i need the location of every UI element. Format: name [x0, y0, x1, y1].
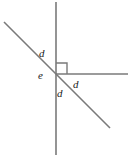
- angle-label-d-upper-left: d: [39, 48, 45, 59]
- angle-label-d-lower: d: [57, 88, 63, 99]
- diagonal-line: [4, 22, 110, 128]
- angle-label-d-right: d: [73, 79, 79, 90]
- angle-label-e-vertex: e: [38, 70, 43, 81]
- figure-canvas: [0, 0, 137, 161]
- geometry-figure: d e d d: [0, 0, 137, 161]
- right-angle-square: [56, 63, 67, 74]
